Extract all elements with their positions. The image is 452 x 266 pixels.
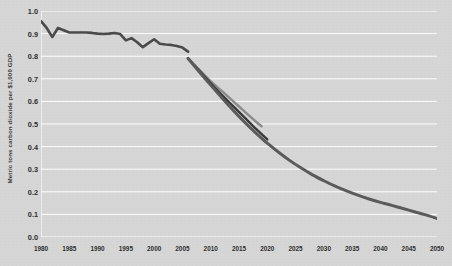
x-axis-tick: 1990 — [90, 245, 104, 252]
x-axis-tick: 2000 — [147, 245, 161, 252]
x-axis-tick: 2005 — [175, 245, 189, 252]
y-axis-tick: 0.5 — [16, 120, 38, 129]
y-axis-tick: 0.9 — [16, 29, 38, 38]
x-axis-tick: 2030 — [317, 245, 331, 252]
series-line — [188, 58, 437, 218]
y-axis-tick: 0.7 — [16, 74, 38, 83]
y-axis-tick: 0.1 — [16, 210, 38, 219]
x-axis-tick: 2020 — [260, 245, 274, 252]
data-series-layer — [41, 21, 437, 218]
y-axis-tick: 0.3 — [16, 165, 38, 174]
y-axis-tick: 0.8 — [16, 52, 38, 61]
chart-canvas — [41, 11, 437, 237]
y-axis-tick: 1.0 — [16, 7, 38, 16]
chart-screenshot: Metric tons carbon dioxide per $1,000 GD… — [0, 0, 452, 266]
x-axis-tick: 2050 — [430, 245, 444, 252]
x-axis-tick: 2040 — [373, 245, 387, 252]
x-axis-tick-labels: 1980198519901995200020052010201520202025… — [0, 245, 452, 259]
x-axis-tick: 1980 — [34, 245, 48, 252]
y-axis-tick-labels: 0.00.10.20.30.40.50.60.70.80.91.0 — [14, 0, 38, 266]
plot-area — [41, 11, 437, 237]
y-axis-tick: 0.4 — [16, 142, 38, 151]
series-line — [188, 58, 262, 126]
x-axis-tick: 2045 — [402, 245, 416, 252]
series-line — [41, 21, 188, 52]
x-axis-tick: 2035 — [345, 245, 359, 252]
x-axis-tick: 2015 — [232, 245, 246, 252]
y-axis-tick: 0.6 — [16, 97, 38, 106]
x-axis-tick: 1995 — [119, 245, 133, 252]
x-axis-tick: 2010 — [204, 245, 218, 252]
x-axis-tick: 2025 — [288, 245, 302, 252]
y-axis-tick: 0.2 — [16, 187, 38, 196]
y-axis-tick: 0.0 — [16, 233, 38, 242]
x-axis-tick: 1985 — [62, 245, 76, 252]
y-axis-label-text: Metric tons carbon dioxide per $1,000 GD… — [7, 54, 14, 184]
